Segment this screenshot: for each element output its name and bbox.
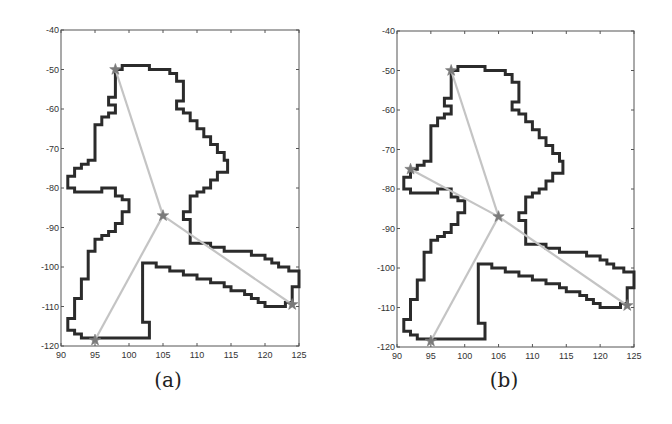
y-tick-label: -100 bbox=[377, 263, 395, 273]
y-tick-label: -40 bbox=[46, 25, 59, 35]
y-tick-label: -90 bbox=[46, 223, 59, 233]
x-tick-label: 90 bbox=[56, 350, 66, 360]
caption-a: (a) bbox=[0, 368, 336, 392]
y-tick-label: -120 bbox=[41, 341, 59, 351]
x-tick-label: 110 bbox=[525, 351, 539, 361]
panel-b: 9095100106110115120125-40-50-60-70-80-90… bbox=[336, 0, 672, 424]
y-tick-label: -70 bbox=[46, 144, 59, 154]
y-tick-label: -40 bbox=[382, 26, 395, 36]
y-tick-label: -60 bbox=[382, 105, 395, 115]
x-tick-label: 100 bbox=[457, 351, 472, 361]
y-tick-label: -80 bbox=[382, 184, 395, 194]
caption-b: (b) bbox=[336, 368, 672, 392]
x-tick-label: 105 bbox=[155, 350, 170, 360]
x-tick-label: 125 bbox=[626, 351, 641, 361]
y-tick-label: -100 bbox=[41, 262, 59, 272]
x-tick-label: 120 bbox=[593, 351, 608, 361]
x-tick-label: 125 bbox=[291, 350, 306, 360]
x-tick-label: 95 bbox=[90, 350, 100, 360]
x-tick-label: 95 bbox=[426, 351, 436, 361]
axes-frame bbox=[61, 30, 299, 346]
x-tick-label: 115 bbox=[559, 351, 573, 361]
y-tick-label: -110 bbox=[42, 302, 59, 312]
y-tick-label: -60 bbox=[46, 104, 59, 114]
x-tick-label: 115 bbox=[224, 350, 238, 360]
x-tick-label: 100 bbox=[121, 350, 136, 360]
y-tick-label: -90 bbox=[382, 224, 395, 234]
y-tick-label: -50 bbox=[46, 65, 59, 75]
x-tick-label: 106 bbox=[491, 351, 506, 361]
y-tick-label: -110 bbox=[378, 303, 395, 313]
x-tick-label: 120 bbox=[257, 350, 272, 360]
y-tick-label: -80 bbox=[46, 183, 59, 193]
y-tick-label: -120 bbox=[377, 342, 395, 352]
x-tick-label: 90 bbox=[392, 351, 402, 361]
y-tick-label: -50 bbox=[382, 66, 395, 76]
plot-a: 9095100105110115120125-40-50-60-70-80-90… bbox=[0, 0, 336, 370]
plot-b: 9095100106110115120125-40-50-60-70-80-90… bbox=[336, 0, 672, 370]
axes-frame bbox=[397, 31, 634, 347]
panel-a: 9095100105110115120125-40-50-60-70-80-90… bbox=[0, 0, 336, 424]
y-tick-label: -70 bbox=[382, 145, 395, 155]
x-tick-label: 110 bbox=[190, 350, 204, 360]
